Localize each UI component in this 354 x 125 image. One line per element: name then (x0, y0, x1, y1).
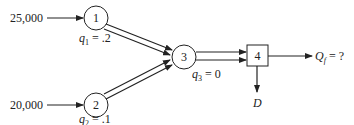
node-1-param: q1 = .2 (79, 31, 111, 47)
output-drain-label: D (252, 96, 262, 110)
input-2-value: 20,000 (10, 98, 43, 112)
node-3-param: q3 = 0 (192, 67, 221, 83)
node-3: 3 (172, 45, 196, 69)
network-diagram: 25,000 20,000 1 q1 = .2 2 q2 = .1 3 q3 =… (0, 0, 354, 125)
edge-3-to-4 (196, 52, 246, 60)
edge-1-to-3 (104, 24, 172, 55)
output-flow-label: Qf = ? (315, 49, 344, 65)
svg-text:1: 1 (93, 11, 99, 25)
edge-2-to-3 (104, 60, 172, 99)
input-1-value: 25,000 (10, 11, 43, 25)
svg-text:2: 2 (93, 98, 99, 112)
svg-text:4: 4 (255, 49, 261, 63)
node-1: 1 (84, 6, 108, 30)
svg-text:3: 3 (181, 50, 187, 64)
node-4: 4 (247, 45, 268, 66)
node-2-param: q2 = .1 (79, 112, 111, 125)
